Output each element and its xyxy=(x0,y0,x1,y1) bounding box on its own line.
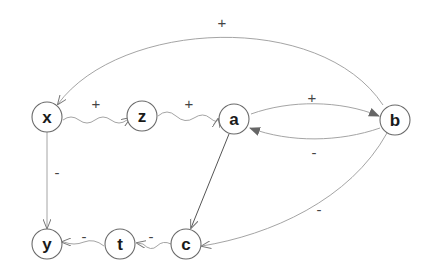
node-t: t xyxy=(105,229,135,259)
edge-label-a-b: + xyxy=(308,89,317,106)
edge-a-b xyxy=(251,104,379,116)
edge-label-t-y: - xyxy=(82,228,87,245)
edge-label-c-t: - xyxy=(149,228,154,245)
node-y: y xyxy=(32,229,62,259)
edge-a-c xyxy=(191,134,229,228)
node-b: b xyxy=(380,105,410,135)
edge-label-z-a: + xyxy=(185,95,194,112)
svg-text:x: x xyxy=(42,108,52,127)
svg-text:z: z xyxy=(138,107,147,126)
svg-text:a: a xyxy=(229,110,239,129)
edge-label-x-y: - xyxy=(55,164,60,181)
node-x: x xyxy=(32,102,62,132)
svg-text:t: t xyxy=(117,235,123,254)
svg-text:y: y xyxy=(42,235,52,254)
edge-b-x xyxy=(58,37,383,105)
edge-c-t xyxy=(137,242,171,248)
edge-label-b-c: - xyxy=(317,201,322,218)
edge-label-b-x: + xyxy=(218,14,227,31)
edge-z-a xyxy=(158,112,218,121)
edge-b-c xyxy=(202,133,387,246)
causal-graph: + + + + - - - - - x z a b y t c xyxy=(0,0,430,280)
edge-label-x-z: + xyxy=(92,95,101,112)
node-a: a xyxy=(219,104,249,134)
edge-label-b-a: - xyxy=(312,144,317,161)
edge-b-a xyxy=(250,128,380,139)
svg-text:b: b xyxy=(390,111,400,130)
node-z: z xyxy=(127,101,157,131)
svg-text:c: c xyxy=(181,235,190,254)
edge-x-z xyxy=(63,117,130,123)
node-c: c xyxy=(171,229,201,259)
